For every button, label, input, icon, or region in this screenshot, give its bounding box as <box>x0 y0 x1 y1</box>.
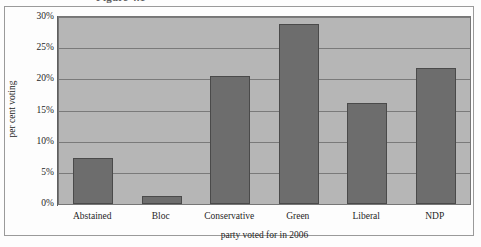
gridline <box>59 17 470 18</box>
y-tick-label: 5% <box>14 167 54 177</box>
y-tick-label: 0% <box>14 198 54 208</box>
bar-bloc <box>142 196 182 204</box>
bar-green <box>279 24 319 204</box>
x-tick-label: Abstained <box>58 210 127 222</box>
bar-abstained <box>73 158 113 204</box>
x-tick-label: Bloc <box>127 210 196 222</box>
y-tick-label: 15% <box>14 105 54 115</box>
bar-conservative <box>210 76 250 204</box>
bar-liberal <box>347 103 387 204</box>
figure-caption: Figure 4.1 <box>96 0 256 3</box>
gridline <box>59 173 470 174</box>
figure-root: Figure 4.1 0%5%10%15%20%25%30% per cent … <box>0 0 481 247</box>
x-axis-tick-labels: AbstainedBlocConservativeGreenLiberalNDP <box>58 210 471 226</box>
gridline <box>59 48 470 49</box>
y-tick-label: 20% <box>14 73 54 83</box>
bar-ndp <box>416 68 456 204</box>
gridline <box>59 111 470 112</box>
gridline <box>59 142 470 143</box>
x-tick-label: NDP <box>401 210 470 222</box>
plot-inner <box>59 17 470 204</box>
y-tick-label: 30% <box>14 11 54 21</box>
y-axis-title: per cent voting <box>7 59 17 159</box>
x-tick-label: Conservative <box>195 210 264 222</box>
y-tick-label: 10% <box>14 136 54 146</box>
x-tick-label: Liberal <box>332 210 401 222</box>
x-axis-title: party voted for in 2006 <box>58 230 471 240</box>
plot-area <box>58 16 471 205</box>
gridline <box>59 79 470 80</box>
y-tick-label: 25% <box>14 42 54 52</box>
x-tick-label: Green <box>264 210 333 222</box>
